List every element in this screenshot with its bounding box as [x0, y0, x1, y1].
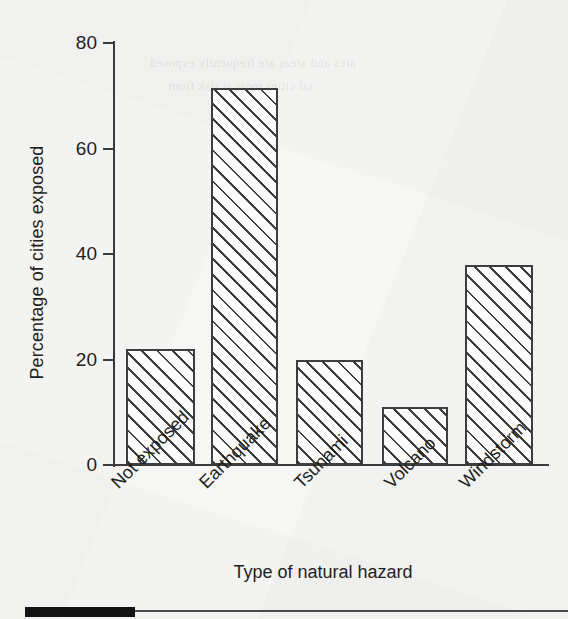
y-tick-label-80: 80	[57, 33, 97, 52]
y-tick-label-20: 20	[57, 350, 97, 369]
bar-chart-figure: 020406080 Percentage of cities exposed N…	[0, 0, 568, 619]
footer-swatch	[25, 607, 135, 617]
y-tick-label-60: 60	[57, 139, 97, 158]
plot-area	[113, 43, 547, 465]
y-axis-title: Percentage of cities exposed	[27, 68, 48, 458]
x-axis-title: Type of natural hazard	[0, 562, 568, 583]
y-axis-tick-labels: 020406080	[52, 0, 97, 619]
bar-earthquake[interactable]	[211, 88, 278, 465]
y-tick-label-40: 40	[57, 244, 97, 263]
y-tick-label-0: 0	[57, 455, 97, 474]
footer-rule	[135, 610, 568, 612]
